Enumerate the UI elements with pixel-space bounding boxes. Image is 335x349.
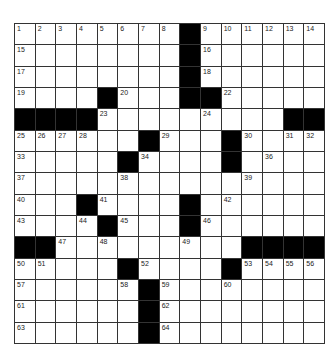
grid-cell[interactable]: 48	[98, 237, 118, 257]
grid-cell[interactable]	[36, 88, 56, 108]
grid-cell[interactable]	[56, 280, 76, 300]
grid-cell[interactable]: 51	[36, 259, 56, 279]
grid-cell[interactable]	[222, 45, 242, 65]
grid-cell[interactable]: 25	[15, 131, 35, 151]
grid-cell[interactable]	[118, 45, 138, 65]
grid-cell[interactable]: 13	[284, 24, 304, 44]
grid-cell[interactable]: 60	[222, 280, 242, 300]
grid-cell[interactable]	[263, 216, 283, 236]
grid-cell[interactable]	[98, 131, 118, 151]
grid-cell[interactable]	[180, 152, 200, 172]
grid-cell[interactable]	[77, 45, 97, 65]
grid-cell[interactable]	[56, 195, 76, 215]
grid-cell[interactable]	[77, 173, 97, 193]
grid-cell[interactable]	[139, 237, 159, 257]
grid-cell[interactable]	[160, 195, 180, 215]
grid-cell[interactable]: 46	[201, 216, 221, 236]
grid-cell[interactable]	[263, 195, 283, 215]
grid-cell[interactable]	[180, 109, 200, 129]
grid-cell[interactable]	[36, 195, 56, 215]
grid-cell[interactable]	[139, 109, 159, 129]
grid-cell[interactable]	[222, 216, 242, 236]
grid-cell[interactable]	[98, 152, 118, 172]
grid-cell[interactable]	[304, 45, 324, 65]
grid-cell[interactable]	[160, 88, 180, 108]
grid-cell[interactable]	[118, 323, 138, 343]
grid-cell[interactable]	[263, 323, 283, 343]
grid-cell[interactable]	[284, 45, 304, 65]
grid-cell[interactable]: 58	[118, 280, 138, 300]
grid-cell[interactable]	[36, 301, 56, 321]
grid-cell[interactable]	[201, 173, 221, 193]
grid-cell[interactable]	[242, 152, 262, 172]
grid-cell[interactable]	[284, 152, 304, 172]
grid-cell[interactable]: 64	[160, 323, 180, 343]
grid-cell[interactable]	[201, 152, 221, 172]
grid-cell[interactable]	[304, 67, 324, 87]
grid-cell[interactable]	[77, 259, 97, 279]
grid-cell[interactable]	[284, 301, 304, 321]
grid-cell[interactable]	[263, 173, 283, 193]
grid-cell[interactable]: 31	[284, 131, 304, 151]
grid-cell[interactable]	[56, 45, 76, 65]
grid-cell[interactable]	[242, 301, 262, 321]
grid-cell[interactable]	[77, 301, 97, 321]
grid-cell[interactable]	[284, 323, 304, 343]
grid-cell[interactable]	[56, 216, 76, 236]
grid-cell[interactable]: 3	[56, 24, 76, 44]
grid-cell[interactable]	[222, 67, 242, 87]
grid-cell[interactable]	[56, 173, 76, 193]
grid-cell[interactable]	[242, 88, 262, 108]
grid-cell[interactable]	[36, 45, 56, 65]
grid-cell[interactable]	[139, 216, 159, 236]
grid-cell[interactable]: 14	[304, 24, 324, 44]
grid-cell[interactable]: 42	[222, 195, 242, 215]
grid-cell[interactable]: 9	[201, 24, 221, 44]
grid-cell[interactable]: 52	[139, 259, 159, 279]
grid-cell[interactable]: 43	[15, 216, 35, 236]
grid-cell[interactable]: 33	[15, 152, 35, 172]
grid-cell[interactable]	[36, 280, 56, 300]
grid-cell[interactable]	[118, 237, 138, 257]
grid-cell[interactable]	[201, 195, 221, 215]
grid-cell[interactable]	[139, 88, 159, 108]
grid-cell[interactable]: 24	[201, 109, 221, 129]
grid-cell[interactable]	[242, 45, 262, 65]
grid-cell[interactable]: 30	[242, 131, 262, 151]
grid-cell[interactable]: 15	[15, 45, 35, 65]
grid-cell[interactable]: 23	[98, 109, 118, 129]
grid-cell[interactable]	[98, 301, 118, 321]
grid-cell[interactable]	[201, 237, 221, 257]
grid-cell[interactable]	[160, 173, 180, 193]
grid-cell[interactable]	[304, 323, 324, 343]
grid-cell[interactable]	[304, 88, 324, 108]
grid-cell[interactable]	[284, 67, 304, 87]
grid-cell[interactable]	[139, 195, 159, 215]
grid-cell[interactable]	[36, 216, 56, 236]
grid-cell[interactable]: 49	[180, 237, 200, 257]
grid-cell[interactable]: 17	[15, 67, 35, 87]
grid-cell[interactable]	[56, 67, 76, 87]
grid-cell[interactable]	[139, 45, 159, 65]
grid-cell[interactable]	[242, 216, 262, 236]
grid-cell[interactable]	[160, 67, 180, 87]
grid-cell[interactable]	[77, 323, 97, 343]
grid-cell[interactable]	[201, 301, 221, 321]
grid-cell[interactable]	[77, 88, 97, 108]
grid-cell[interactable]: 36	[263, 152, 283, 172]
grid-cell[interactable]: 54	[263, 259, 283, 279]
grid-cell[interactable]	[284, 88, 304, 108]
grid-cell[interactable]	[77, 280, 97, 300]
grid-cell[interactable]	[222, 237, 242, 257]
grid-cell[interactable]	[304, 301, 324, 321]
grid-cell[interactable]	[139, 173, 159, 193]
grid-cell[interactable]	[201, 280, 221, 300]
grid-cell[interactable]	[36, 173, 56, 193]
grid-cell[interactable]	[56, 88, 76, 108]
grid-cell[interactable]: 20	[118, 88, 138, 108]
grid-cell[interactable]: 29	[160, 131, 180, 151]
grid-cell[interactable]: 56	[304, 259, 324, 279]
grid-cell[interactable]	[56, 323, 76, 343]
grid-cell[interactable]	[263, 67, 283, 87]
grid-cell[interactable]: 61	[15, 301, 35, 321]
